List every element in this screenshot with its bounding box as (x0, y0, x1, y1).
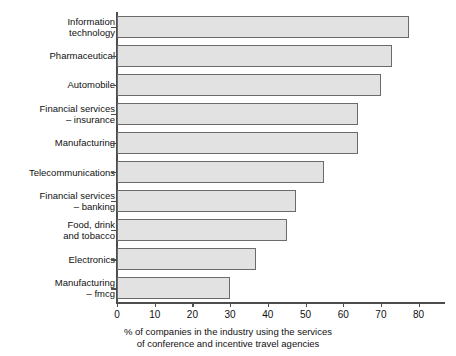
x-axis-tick-label: 70 (366, 309, 396, 320)
bar (117, 277, 230, 299)
bar-fill (117, 103, 358, 125)
y-axis-tick (111, 56, 117, 57)
category-label: Manufacturing – fmcg (0, 277, 115, 299)
x-axis-tick (306, 302, 307, 307)
x-axis-tick-label: 80 (404, 309, 434, 320)
bar-chart: Information technologyPharmaceuticalAuto… (0, 0, 456, 356)
bar-fill (117, 45, 392, 67)
bar-fill (117, 132, 358, 154)
bar-fill (117, 219, 287, 241)
y-axis-tick (111, 230, 117, 231)
bar (117, 45, 392, 67)
x-axis-tick (268, 302, 269, 307)
category-label: Electronics (0, 254, 115, 265)
x-axis-tick (419, 302, 420, 307)
category-label: Manufacturing (0, 137, 115, 148)
x-axis-tick-label: 60 (328, 309, 358, 320)
x-axis-tick-label: 20 (177, 309, 207, 320)
category-label: Pharmaceutical (0, 50, 115, 61)
category-label: Information technology (0, 16, 115, 38)
x-axis-caption: % of companies in the industry using the… (0, 326, 456, 350)
y-axis-tick (111, 201, 117, 202)
bar-fill (117, 16, 409, 38)
category-label: Food, drink and tobacco (0, 219, 115, 241)
x-axis-tick (381, 302, 382, 307)
category-label: Financial services – banking (0, 190, 115, 212)
y-axis-tick (111, 143, 117, 144)
y-axis-tick (111, 27, 117, 28)
bar-fill (117, 277, 230, 299)
bar (117, 161, 324, 183)
bar (117, 219, 287, 241)
y-axis-tick (111, 172, 117, 173)
x-axis-tick (117, 302, 118, 307)
x-axis-tick-label: 0 (102, 309, 132, 320)
x-axis-tick-label: 40 (253, 309, 283, 320)
x-axis-tick-label: 30 (215, 309, 245, 320)
bar (117, 74, 381, 96)
bar-fill (117, 74, 381, 96)
y-axis-tick (111, 259, 117, 260)
bar (117, 248, 256, 270)
plot-area (117, 12, 445, 303)
bar (117, 132, 358, 154)
bar-fill (117, 190, 296, 212)
y-axis-tick (111, 85, 117, 86)
x-axis-tick (230, 302, 231, 307)
bar-fill (117, 161, 324, 183)
x-axis-tick-label: 50 (291, 309, 321, 320)
y-axis-tick (111, 114, 117, 115)
bar-fill (117, 248, 256, 270)
y-axis-tick (111, 288, 117, 289)
x-axis-tick (343, 302, 344, 307)
category-label: Telecommunications (0, 167, 115, 178)
x-axis-tick (192, 302, 193, 307)
bar (117, 16, 409, 38)
category-label: Automobile (0, 79, 115, 90)
category-label: Financial services – insurance (0, 103, 115, 125)
bar (117, 190, 296, 212)
x-axis-tick (155, 302, 156, 307)
bar (117, 103, 358, 125)
x-axis-tick-label: 10 (140, 309, 170, 320)
